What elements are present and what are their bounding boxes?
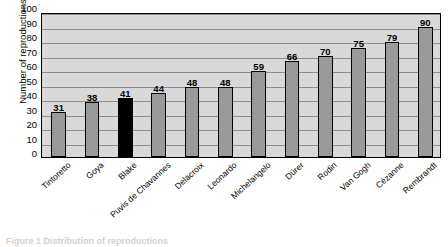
x-axis-label: Tintoretto — [39, 160, 72, 191]
bar-column — [351, 13, 366, 157]
x-axis-label: Dürer — [283, 160, 305, 182]
plot-area: 313841444848596670757990 — [41, 13, 441, 158]
x-axis-label: Van Gogh — [338, 160, 373, 193]
bar-value-label: 48 — [212, 77, 239, 88]
bar-value-label: 66 — [279, 51, 306, 62]
y-axis-tick: 100 — [12, 4, 37, 13]
bar — [218, 87, 233, 157]
bar — [185, 87, 200, 157]
x-axis-label: Rodin — [316, 160, 339, 182]
bar-column — [318, 13, 333, 157]
x-axis-label: Rembrandt — [401, 160, 439, 196]
bar — [318, 56, 333, 158]
bar-value-label: 48 — [179, 77, 206, 88]
y-axis-tick: 60 — [12, 62, 37, 71]
y-axis-tick: 90 — [12, 19, 37, 28]
bar-column — [118, 13, 133, 157]
bar — [385, 42, 400, 157]
x-axis-label: Blake — [117, 160, 139, 182]
bar — [85, 102, 100, 157]
y-axis-tick: 50 — [12, 77, 37, 86]
y-axis-tick: 30 — [12, 106, 37, 115]
bar-value-label: 75 — [345, 38, 372, 49]
bar — [418, 27, 433, 158]
y-axis-tick: 0 — [12, 149, 37, 158]
bar-value-label: 79 — [379, 32, 406, 43]
bar-value-label: 41 — [112, 88, 139, 99]
figure-caption: Figure 1 Distribution of reproductions — [6, 236, 446, 247]
y-axis-tick-labels: 1009080706050403020100 — [12, 9, 37, 162]
bar — [351, 48, 366, 157]
bar-series: 313841444848596670757990 — [42, 14, 440, 157]
y-axis-tick: 40 — [12, 91, 37, 100]
bar — [51, 112, 66, 157]
x-axis-label: Puvis de Chavannes — [108, 160, 173, 220]
bar-column — [85, 13, 100, 157]
bar-value-label: 59 — [245, 61, 272, 72]
bar — [151, 93, 166, 157]
figure-bar-chart: Number of reproductions 1009080706050403… — [0, 0, 448, 247]
y-axis-tick: 10 — [12, 135, 37, 144]
y-axis-tick: 70 — [12, 48, 37, 57]
bar — [118, 98, 133, 157]
bar-value-label: 70 — [312, 46, 339, 57]
bar-column — [418, 13, 433, 157]
y-axis-tick: 20 — [12, 120, 37, 129]
bar-value-label: 90 — [412, 17, 439, 28]
x-axis-label: Delacroix — [173, 160, 206, 191]
bar-column — [251, 13, 266, 157]
y-axis-tick: 80 — [12, 33, 37, 42]
bar — [251, 71, 266, 157]
x-axis-label: Leonardo — [206, 160, 239, 191]
bar-column — [51, 13, 66, 157]
bar — [285, 61, 300, 157]
x-axis-label: Cézanne — [374, 160, 406, 190]
bar-value-label: 44 — [145, 83, 172, 94]
x-axis-category-labels: TintorettoGoyaBlakePuvis de ChavannesDel… — [41, 160, 441, 222]
bar-column — [285, 13, 300, 157]
bar-value-label: 31 — [45, 102, 72, 113]
x-axis-label: Goya — [84, 160, 106, 181]
bar-value-label: 38 — [79, 92, 106, 103]
